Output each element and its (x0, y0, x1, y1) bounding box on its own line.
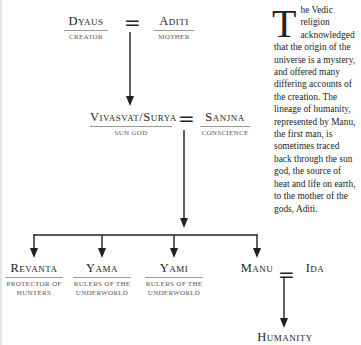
node-role-line2: Hunters (4, 289, 64, 298)
divider (200, 126, 250, 127)
divider (145, 277, 203, 278)
node-name: Humanity (254, 330, 316, 344)
node-role-line2: Underworld (72, 289, 132, 298)
marriage-symbol: = (178, 108, 195, 128)
node-aditi: Aditi Mother (154, 14, 194, 42)
node-role-line1: Rulers of the (144, 280, 204, 289)
node-role-line1: Protector of (4, 280, 64, 289)
node-role: Mother (154, 33, 194, 42)
divider (64, 30, 108, 31)
node-name: Aditi (154, 14, 194, 28)
divider (90, 126, 172, 127)
divider (5, 277, 63, 278)
node-role: Conscience (200, 129, 250, 138)
node-ida: Ida (300, 261, 330, 275)
node-role: Sun God (90, 129, 172, 138)
divider (73, 277, 131, 278)
node-role: Creator (64, 33, 108, 42)
node-name: Dyaus (64, 14, 108, 28)
sidebar-paragraph: The Vedic religion acknowledged that the… (274, 4, 358, 215)
node-sanjna: Sanjna Conscience (200, 110, 250, 138)
node-name: Yama (72, 261, 132, 275)
node-name: Vivasvat/Surya (90, 110, 172, 124)
node-name: Yami (144, 261, 204, 275)
node-humanity: Humanity (254, 330, 316, 344)
node-name: Revanta (4, 261, 64, 275)
node-yama: Yama Rulers of the Underworld (72, 261, 132, 298)
node-role-line2: Underworld (144, 289, 204, 298)
divider (154, 30, 194, 31)
node-manu: Manu (235, 261, 279, 275)
node-vivasvat-surya: Vivasvat/Surya Sun God (90, 110, 172, 138)
node-name: Manu (235, 261, 279, 275)
marriage-symbol: = (124, 12, 141, 32)
node-name: Ida (300, 261, 330, 275)
node-yami: Yami Rulers of the Underworld (144, 261, 204, 298)
marriage-symbol: = (278, 264, 295, 284)
node-role-line1: Rulers of the (72, 280, 132, 289)
node-revanta: Revanta Protector of Hunters (4, 261, 64, 298)
node-dyaus: Dyaus Creator (64, 14, 108, 42)
drop-cap: T (272, 8, 296, 40)
node-name: Sanjna (200, 110, 250, 124)
